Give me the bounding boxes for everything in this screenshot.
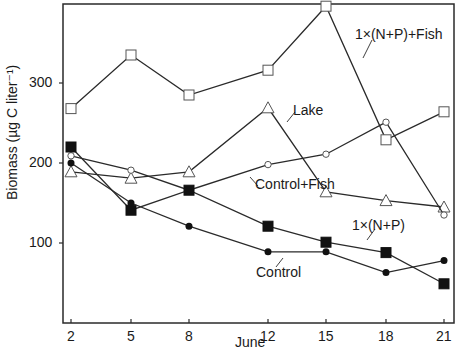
data-point [265,248,272,255]
data-point [262,102,274,113]
annotation-fish-np: 1×(N+P)+Fish [355,26,443,42]
annotation-np: 1×(N+P) [352,217,405,233]
data-point [441,212,447,218]
data-point [441,257,448,264]
y-tick-label: 300 [29,74,52,90]
data-point [381,248,391,258]
data-point [323,151,329,157]
y-tick-label: 100 [29,234,52,250]
data-point [439,107,449,117]
chart-plot [0,0,461,359]
y-axis-label: Biomass (µg C liter⁻¹) [4,65,20,200]
annotation-arrow [363,40,372,58]
data-point [128,200,135,207]
annotation-lake: Lake [293,102,323,118]
data-point [128,167,134,173]
data-point [65,166,77,177]
data-point [381,135,391,145]
data-point [321,237,331,247]
data-point [186,223,193,230]
annotation-control: Control [256,264,301,280]
data-point [439,279,449,289]
x-tick-label: 2 [67,328,75,344]
x-tick-label: 15 [318,328,334,344]
data-point [323,248,330,255]
data-point [126,205,136,215]
x-tick-label: 21 [436,328,452,344]
x-tick-label: 8 [185,328,193,344]
data-point [383,119,389,125]
data-point [265,161,271,167]
data-point [126,50,136,60]
data-point [68,160,75,167]
x-tick-label: 12 [260,328,276,344]
data-point [66,142,76,152]
x-tick-label: 5 [127,328,135,344]
data-point [183,166,195,177]
data-point [68,153,74,159]
annotation-control-fish: Control+Fish [255,176,335,192]
data-point [263,65,273,75]
data-point [383,269,390,276]
data-point [321,1,331,11]
x-tick-label: 18 [378,328,394,344]
data-point [184,90,194,100]
y-tick-label: 200 [29,154,52,170]
data-point [184,185,194,195]
data-point [66,104,76,114]
data-point [263,221,273,231]
